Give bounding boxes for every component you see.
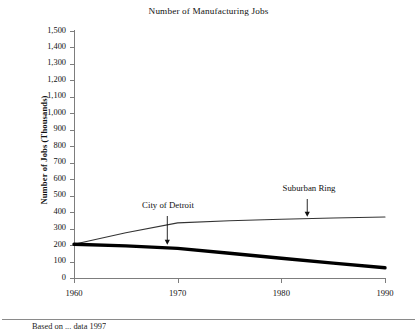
annotation-arrow-head — [165, 240, 170, 245]
series-line-suburban-ring — [74, 217, 385, 244]
annotation-arrow-head — [305, 212, 310, 217]
figure-manufacturing-jobs: Number of Manufacturing Jobs Number of J… — [0, 0, 417, 329]
plot-series-layer — [0, 0, 417, 329]
series-line-city-of-detroit — [74, 244, 385, 268]
footer-divider — [2, 319, 415, 320]
annotation-label-city-of-detroit: City of Detroit — [108, 200, 228, 210]
source-note: Based on ... data 1997 — [32, 322, 106, 329]
annotation-label-suburban-ring: Suburban Ring — [249, 183, 369, 193]
